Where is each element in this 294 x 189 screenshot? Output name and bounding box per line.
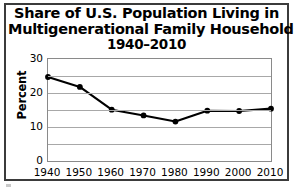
data-point-1980: [173, 119, 179, 125]
chart-title-line-2: Multigenerational Family Households: [8, 22, 285, 38]
data-point-1950: [77, 84, 83, 90]
series-line: [48, 77, 271, 122]
data-point-1970: [141, 113, 147, 119]
chart-figure: Share of U.S. Population Living in Multi…: [0, 0, 294, 189]
y-tick-label-0: 0: [19, 155, 43, 165]
x-axis-tick-labels: 19401950196019701980199020002010: [47, 167, 272, 181]
plot-area: [47, 58, 272, 162]
gridline: [48, 110, 271, 111]
gridline: [48, 127, 271, 128]
chart-title-line-1: Share of U.S. Population Living in: [8, 6, 285, 22]
y-tick-label-30: 30: [19, 53, 43, 63]
data-point-2000: [236, 108, 242, 114]
chart-title-line-3: 1940–2010: [8, 37, 285, 52]
page-edge-mark: [6, 184, 11, 187]
gridline: [48, 144, 271, 145]
y-axis-tick-labels: 0102030: [17, 58, 43, 162]
chart-title: Share of U.S. Population Living in Multi…: [8, 6, 285, 52]
data-point-1940: [45, 74, 51, 80]
gridline: [48, 76, 271, 77]
y-tick-label-10: 10: [19, 121, 43, 131]
gridline: [48, 93, 271, 94]
x-tick-label-2010: 2010: [250, 167, 290, 178]
y-tick-label-20: 20: [19, 87, 43, 97]
